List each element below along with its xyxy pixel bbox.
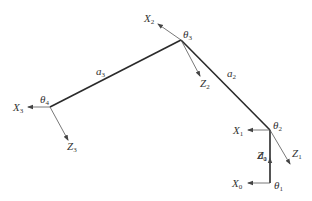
link-a3 (50, 40, 181, 107)
axis-label-x0: X0 (232, 178, 242, 191)
link-label-a3: a3 (96, 66, 105, 79)
axis-label-x1: X1 (233, 125, 243, 138)
joint-label-theta1: θ1 (274, 180, 283, 193)
joint-label-theta4: θ4 (40, 94, 49, 107)
link-label-a2: a2 (227, 68, 236, 81)
axis-z2-arrow (181, 40, 200, 76)
joint-label-theta3: θ3 (183, 29, 192, 42)
axis-label-x3: X3 (13, 102, 23, 115)
axis-label-z3: Z3 (67, 141, 77, 154)
axis-x2-arrow (158, 24, 181, 40)
axis-z1-arrow (270, 130, 290, 164)
axis-label-z0: Z0 (257, 150, 267, 163)
axis-label-x2: X2 (144, 13, 154, 26)
axis-label-z2: Z2 (200, 78, 210, 91)
link-a2 (181, 40, 270, 130)
axis-label-z1: Z1 (292, 148, 302, 161)
joint-label-theta2: θ2 (273, 120, 282, 133)
axis-z3-arrow (50, 107, 68, 140)
